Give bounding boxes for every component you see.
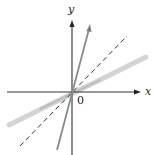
y-axis-label: y bbox=[68, 3, 74, 16]
x-axis-label: x bbox=[145, 85, 151, 98]
y-axis-arrow-icon bbox=[70, 20, 75, 27]
origin-label: 0 bbox=[77, 94, 84, 107]
coordinate-plane bbox=[0, 0, 154, 155]
x-axis-arrow-icon bbox=[134, 90, 141, 95]
steep-line-arrow-icon bbox=[87, 24, 92, 32]
